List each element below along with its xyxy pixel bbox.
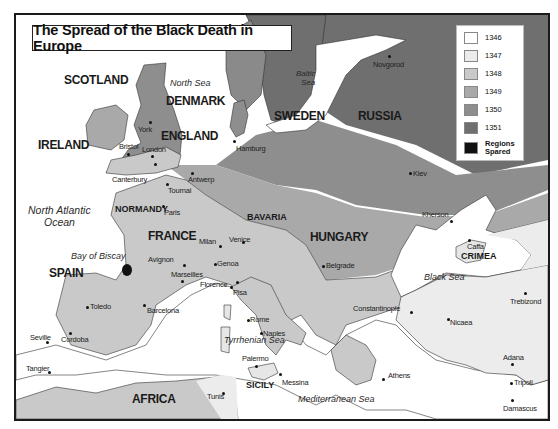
legend-label: 1348 <box>485 70 502 78</box>
city-dot-trebizond <box>524 292 527 295</box>
label-palermo: Palermo <box>242 355 269 363</box>
label-york: York <box>138 126 152 134</box>
legend-swatch <box>464 32 478 44</box>
label-constantinople: Constantinople <box>353 305 400 313</box>
city-dot-kiev <box>409 172 412 175</box>
label-tripoli: Tripoli <box>514 379 533 387</box>
label-athens: Athens <box>388 372 410 380</box>
label-spain: SPAIN <box>49 267 83 279</box>
label-marseilles: Marseilles <box>171 271 203 279</box>
label-baltic-sea-2: Sea <box>301 79 315 87</box>
label-milan: Milan <box>199 238 216 246</box>
legend: 1346 1347 1348 1349 1350 1351 Regions Sp… <box>456 25 524 161</box>
label-trebizond: Trebizond <box>510 298 541 306</box>
city-dot-barcelona <box>143 304 146 307</box>
label-damascus: Damascus <box>503 405 537 413</box>
city-dot-york <box>149 121 152 124</box>
label-nicaea: Nicaea <box>450 319 472 327</box>
map-title-box: The Spread of the Black Death in Europe <box>32 25 292 51</box>
city-dot-toledo <box>86 306 89 309</box>
legend-item-1349: 1349 <box>464 86 502 98</box>
city-dot-athens <box>382 378 385 381</box>
city-dot-tripoli <box>510 382 513 385</box>
city-dot-damascus <box>511 399 514 402</box>
legend-item-1348: 1348 <box>464 68 502 80</box>
label-kherson: Kherson <box>422 211 449 219</box>
label-naples: Naples <box>263 330 285 338</box>
label-kiev: Kiev <box>413 170 427 178</box>
city-dot-hamburg <box>233 140 236 143</box>
map-title: The Spread of the Black Death in Europe <box>33 22 291 54</box>
label-pisa: Pisa <box>233 289 247 297</box>
legend-item-1346: 1346 <box>464 32 502 44</box>
label-england: ENGLAND <box>161 130 218 142</box>
city-dot-florence <box>236 281 239 284</box>
city-dot-adana <box>511 363 514 366</box>
label-venice: Venice <box>229 236 250 244</box>
city-dot-kherson <box>450 220 453 223</box>
label-london: London <box>142 146 166 154</box>
city-dot-belgrade <box>322 265 325 268</box>
legend-item-1347: 1347 <box>464 50 502 62</box>
legend-item-1350: 1350 <box>464 104 502 116</box>
label-barcelona: Barcelona <box>147 307 179 315</box>
legend-swatch <box>464 86 478 98</box>
label-bavaria: BAVARIA <box>247 213 287 222</box>
regions-spared-marker <box>122 264 132 276</box>
legend-label: 1350 <box>485 106 502 114</box>
legend-swatch <box>464 104 478 116</box>
legend-swatch <box>464 142 478 154</box>
label-tangier: Tangier <box>26 365 49 373</box>
city-dot-marseilles <box>181 280 184 283</box>
city-dot-palermo <box>255 365 258 368</box>
label-cordoba: Cordoba <box>61 336 88 344</box>
label-hungary: HUNGARY <box>310 231 368 243</box>
label-north-atlantic-1: North Atlantic <box>28 204 91 216</box>
city-dot-avignon <box>183 264 186 267</box>
label-canterbury: Canterbury <box>112 176 147 184</box>
label-novgorod: Novgorod <box>373 61 404 69</box>
label-bay-of-biscay: Bay of Biscay <box>71 252 126 261</box>
city-dot-messina <box>279 373 282 376</box>
label-hamburg: Hamburg <box>236 145 265 153</box>
legend-swatch <box>464 68 478 80</box>
label-mediterranean-sea: Mediterranean Sea <box>298 395 375 404</box>
label-tunis: Tunis <box>207 393 224 401</box>
label-africa: AFRICA <box>132 393 176 405</box>
label-north-atlantic-2: Ocean <box>44 216 75 228</box>
land-corsica <box>224 305 231 320</box>
label-messina: Messina <box>282 379 309 387</box>
city-dot-novgorod <box>388 55 391 58</box>
city-dot-bristol <box>127 153 130 156</box>
legend-item-1351: 1351 <box>464 122 502 134</box>
label-sicily: SICILY <box>246 381 274 390</box>
label-paris: Paris <box>164 209 180 217</box>
label-seville: Seville <box>30 334 51 342</box>
label-florence: Florence <box>200 281 228 289</box>
label-france: FRANCE <box>148 230 196 242</box>
label-denmark: DENMARK <box>166 95 225 107</box>
land-denmark <box>230 100 248 137</box>
map-frame: The Spread of the Black Death in Europe … <box>14 13 550 421</box>
label-tournai: Tournai <box>168 187 191 195</box>
label-russia: RUSSIA <box>358 110 402 122</box>
label-scotland: SCOTLAND <box>64 74 128 86</box>
legend-label: 1347 <box>485 52 502 60</box>
label-toledo: Toledo <box>90 303 111 311</box>
label-adana: Adana <box>503 354 524 362</box>
label-ireland: IRELAND <box>38 139 89 151</box>
label-normandy: NORMANDY <box>115 205 168 214</box>
legend-item-regions-spared: Regions Spared <box>464 140 519 156</box>
label-antwerp: Antwerp <box>188 176 214 184</box>
legend-label: Regions Spared <box>485 140 519 156</box>
city-dot-milan <box>219 245 222 248</box>
label-caffa: Caffa <box>467 243 484 251</box>
legend-label: 1351 <box>485 124 502 132</box>
label-black-sea: Black Sea <box>424 273 465 282</box>
label-north-sea: North Sea <box>170 79 211 88</box>
label-rome: Rome <box>250 316 269 324</box>
legend-swatch <box>464 50 478 62</box>
label-belgrade: Belgrade <box>326 262 354 270</box>
label-crimea: CRIMEA <box>461 252 497 261</box>
label-sweden: SWEDEN <box>274 110 325 122</box>
